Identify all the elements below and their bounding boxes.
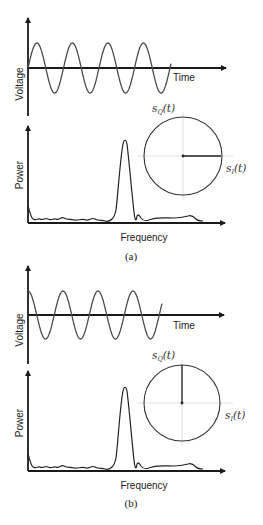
time-axis-label: Time xyxy=(173,320,195,331)
i-axis-label: sI(t) xyxy=(226,162,246,176)
voltage-axis-label: Voltage xyxy=(14,313,25,347)
power-axis-label: Power xyxy=(14,408,25,437)
frequency-axis-label: Frequency xyxy=(120,480,167,491)
time-domain-plot-a: Voltage Time xyxy=(14,18,226,116)
panel-b: Voltage Time sQ(t) sI(t) Power Frequency… xyxy=(14,266,245,510)
time-domain-plot-b: Voltage Time xyxy=(14,266,224,364)
spectrum-trace xyxy=(28,140,203,221)
caption-a: (a) xyxy=(125,250,138,263)
power-axis-label: Power xyxy=(14,160,25,189)
spectrum-plot-a: Power Frequency xyxy=(14,126,225,243)
i-axis-label: sI(t) xyxy=(225,409,245,423)
q-axis-label: sQ(t) xyxy=(152,349,175,363)
origin-dot xyxy=(182,155,185,158)
spectrum-trace xyxy=(28,387,203,469)
constellation-b: sQ(t) sI(t) xyxy=(137,349,245,446)
iq-figure: Voltage Time sQ(t) sI(t) Power Frequency… xyxy=(0,0,263,525)
spectrum-plot-b: Power Frequency xyxy=(14,371,225,491)
constellation-a: sQ(t) sI(t) xyxy=(137,102,246,200)
caption-b: (b) xyxy=(125,497,138,510)
frequency-axis-label: Frequency xyxy=(120,232,167,243)
q-axis-label: sQ(t) xyxy=(152,102,175,116)
voltage-axis-label: Voltage xyxy=(14,67,25,101)
origin-dot xyxy=(181,402,184,405)
time-axis-label: Time xyxy=(173,72,195,83)
panel-a: Voltage Time sQ(t) sI(t) Power Frequency… xyxy=(14,18,246,263)
